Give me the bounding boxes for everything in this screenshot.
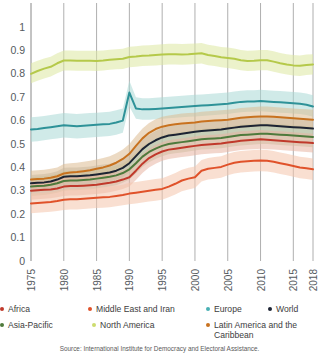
legend-label: Europe — [214, 304, 242, 314]
x-tick-label-2005: 2005 — [223, 269, 234, 292]
x-tick-label-1975: 1975 — [26, 269, 37, 292]
legend-dot-icon — [268, 307, 272, 311]
y-tick-label-0.3: 0.3 — [10, 184, 25, 196]
x-tick-label-1990: 1990 — [124, 269, 135, 292]
legend-dot-icon — [0, 307, 4, 311]
legend-item-europe[interactable]: Europe — [206, 304, 268, 314]
legend-dot-icon — [92, 323, 96, 327]
legend-label: World — [276, 304, 298, 314]
y-tick-label-1: 1 — [19, 21, 25, 33]
y-tick-label-0.8: 0.8 — [10, 67, 25, 79]
x-tick-label-1995: 1995 — [157, 269, 168, 292]
chart-container: 00.10.20.30.40.50.60.70.80.9119751980198… — [0, 0, 319, 359]
y-tick-label-0.4: 0.4 — [10, 161, 25, 173]
legend-label: Asia-Pacific — [8, 320, 53, 330]
legend-row-2: Asia-PacificNorth AmericaLatin America a… — [0, 320, 319, 336]
legend-item-world[interactable]: World — [268, 304, 318, 314]
legend-dot-icon — [206, 323, 210, 327]
x-tick-label-2015: 2015 — [288, 269, 299, 292]
y-tick-label-0: 0 — [19, 255, 25, 267]
legend-label: North America — [100, 320, 154, 330]
x-tick-label-2010: 2010 — [256, 269, 267, 292]
legend-dot-icon — [206, 307, 210, 311]
y-tick-label-0.5: 0.5 — [10, 138, 25, 150]
legend-row-1: AfricaMiddle East and IranEuropeWorld — [0, 304, 319, 320]
legend-label: Middle East and Iran — [96, 304, 175, 314]
line-chart-plot: 00.10.20.30.40.50.60.70.80.9119751980198… — [0, 0, 319, 300]
y-tick-label-0.1: 0.1 — [10, 231, 25, 243]
y-tick-label-0.7: 0.7 — [10, 91, 25, 103]
source-note: Source: International Institute for Demo… — [0, 345, 319, 352]
legend-item-middle-east-and-iran[interactable]: Middle East and Iran — [88, 304, 206, 314]
y-tick-label-0.9: 0.9 — [10, 44, 25, 56]
legend-label: Latin America and the Caribbean — [214, 320, 316, 340]
x-tick-label-1980: 1980 — [59, 269, 70, 292]
legend-item-asia-pacific[interactable]: Asia-Pacific — [0, 320, 92, 330]
y-tick-label-0.2: 0.2 — [10, 208, 25, 220]
legend-label: Africa — [8, 304, 30, 314]
x-tick-label-1985: 1985 — [92, 269, 103, 292]
legend-item-latin-america-and-the-caribbean[interactable]: Latin America and the Caribbean — [206, 320, 316, 340]
x-tick-label-2018: 2018 — [308, 269, 319, 292]
legend-dot-icon — [0, 323, 4, 327]
legend-item-north-america[interactable]: North America — [92, 320, 206, 330]
x-tick-label-2000: 2000 — [190, 269, 201, 292]
legend-dot-icon — [88, 307, 92, 311]
chart-legend: AfricaMiddle East and IranEuropeWorld As… — [0, 304, 319, 336]
y-tick-label-0.6: 0.6 — [10, 114, 25, 126]
legend-item-africa[interactable]: Africa — [0, 304, 88, 314]
